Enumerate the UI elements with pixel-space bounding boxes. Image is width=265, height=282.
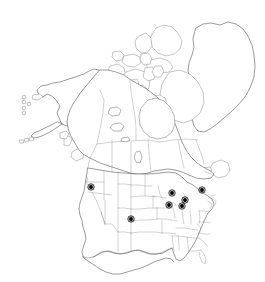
- occurrence-dot-colorado: [129, 217, 133, 221]
- bering-islet-b: [22, 100, 26, 104]
- florida-outline: [199, 250, 206, 264]
- bathurst-island: [140, 53, 152, 65]
- ga-fl-line: [189, 250, 201, 251]
- va-nc-line: [199, 233, 210, 234]
- new-england-line-b: [211, 195, 215, 196]
- aleutian-islet-3: [19, 140, 24, 143]
- greenland-outline: [188, 22, 255, 132]
- prince-patrick-island: [112, 51, 124, 61]
- occurrence-dot-new-york: [200, 188, 204, 192]
- occurrence-dot-oregon: [89, 185, 93, 189]
- quebec-labrador-border: [196, 140, 204, 164]
- axel-heiberg-island: [135, 33, 152, 53]
- melville-island: [122, 54, 141, 67]
- aleutian-islet-1: [29, 137, 34, 141]
- nc-sc-line: [199, 238, 207, 246]
- great-bear-lake: [108, 107, 121, 116]
- bering-islet-a: [22, 95, 26, 99]
- occurrence-dot-iowa: [167, 203, 171, 207]
- north-america-map: [0, 0, 265, 282]
- bering-islet-d: [22, 111, 26, 115]
- aleutian-islet-2: [24, 138, 29, 142]
- ellesmere-island: [150, 25, 182, 56]
- alaska-peninsula: [31, 122, 62, 138]
- occurrence-dot-wisconsin: [170, 191, 174, 195]
- bering-islet-c: [22, 106, 26, 110]
- occurrence-dot-illinois-indiana: [180, 204, 184, 208]
- distribution-map-figure: [0, 0, 265, 282]
- pribilof-islet: [27, 102, 31, 106]
- mexico-outline: [83, 257, 174, 274]
- occurrence-dot-michigan: [183, 198, 187, 202]
